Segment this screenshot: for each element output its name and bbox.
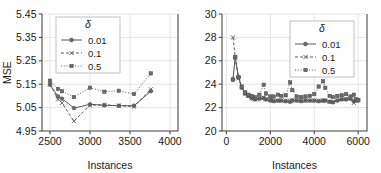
data-point-0p5-17 [291,88,294,91]
data-point-0p5-19 [299,95,302,98]
ytick-label: 5.05 [16,101,37,113]
x-axis-label: Instances [88,159,133,171]
data-point-0p01-leg [304,42,308,46]
y-axis-label: MSE [1,61,13,84]
x-axis-label: Instances [272,159,317,171]
data-point-0p01-2 [60,97,64,101]
data-point-0p5-31 [349,95,352,98]
data-point-0p5-4 [243,91,246,94]
legend-label-0p1: 0.1 [322,52,335,63]
legend-label-0p5: 0.5 [322,65,335,76]
data-point-0p5-6 [250,94,253,97]
data-point-0p5-11 [269,95,272,98]
data-point-0p5-3 [72,95,75,98]
legend-label-0p1: 0.1 [88,48,101,59]
data-point-0p5-24 [321,80,324,83]
data-point-0p5-13 [276,93,279,96]
data-point-0p5-6 [117,89,120,92]
data-point-0p5-15 [284,94,287,97]
ytick-label: 5.25 [16,54,37,66]
legend-label-0p01: 0.01 [322,39,341,50]
data-point-0p5-16 [288,81,291,84]
ytick-label: 4.95 [16,125,37,137]
data-point-0p5-20 [304,95,307,98]
figure-container: 4.955.055.155.255.355.452500300035004000… [0,0,381,173]
data-point-0p5-leg [304,68,307,71]
data-point-0p5-25 [324,86,327,89]
legend: δ0.010.10.5 [290,21,354,77]
legend-label-0p5: 0.5 [88,61,101,72]
data-point-0p5-3 [240,85,243,88]
data-point-0p5-7 [132,92,135,95]
ytick-label: 30 [205,8,217,20]
data-point-0p5-2 [60,90,63,93]
legend-title: δ [319,22,325,34]
data-point-0p5-5 [247,93,250,96]
left-chart-svg: 4.955.055.155.255.355.452500300035004000… [0,0,190,173]
data-point-0p5-18 [295,95,298,98]
legend: δ0.010.10.5 [56,17,120,73]
data-point-0p5-32 [352,93,355,96]
data-point-0p5-14 [280,94,283,97]
data-point-0p5-1 [56,87,59,90]
series-markers [48,72,152,99]
data-point-0p5-7 [253,95,256,98]
ytick-label: 5.35 [16,31,37,43]
data-point-0p5-21 [308,94,311,97]
data-point-0p5-12 [272,95,275,98]
ytick-label: 22 [205,101,217,113]
chart-panel-right: 2022242628300200040006000Instancesδ0.010… [190,0,381,173]
xtick-label: 3500 [118,135,142,147]
xtick-label: 6000 [347,135,371,147]
xtick-label: 4000 [158,135,182,147]
ytick-label: 28 [205,31,217,43]
data-point-0p5-0 [231,78,234,81]
ytick-label: 5.15 [16,78,37,90]
data-point-0p01-3 [72,106,76,110]
legend-title: δ [85,18,91,30]
data-point-0p1-2 [60,101,64,105]
xtick-label: 2500 [38,135,62,147]
data-point-0p5-10 [264,92,267,95]
series-line-0p1 [50,84,151,121]
ytick-label: 5.45 [16,8,37,20]
data-point-0p5-9 [262,83,265,86]
data-point-0p5-leg [70,64,73,67]
ytick-label: 26 [205,54,217,66]
right-chart-svg: 2022242628300200040006000Instancesδ0.010… [190,0,381,173]
ytick-label: 24 [205,78,217,90]
data-point-0p01-leg [70,38,74,42]
legend-label-0p01: 0.01 [88,35,107,46]
xtick-label: 0 [223,135,229,147]
data-point-0p5-30 [344,92,347,95]
data-point-0p5-2 [237,75,240,78]
chart-panel-left: 4.955.055.155.255.355.452500300035004000… [0,0,190,173]
data-point-0p5-0 [48,79,51,82]
data-point-0p5-27 [331,95,334,98]
series-0p5 [48,72,152,99]
data-point-0p5-8 [149,72,152,75]
data-point-0p5-28 [336,94,339,97]
ytick-label: 20 [205,125,217,137]
data-point-0p5-23 [317,85,320,88]
data-series-group [48,72,153,124]
data-point-0p5-34 [357,98,360,101]
data-point-0p5-5 [103,90,106,93]
xtick-label: 2000 [259,135,283,147]
data-point-0p5-22 [313,92,316,95]
xtick-label: 4000 [303,135,327,147]
data-point-0p1-3 [72,119,76,123]
xtick-label: 3000 [78,135,102,147]
data-point-0p5-26 [328,94,331,97]
data-point-0p5-4 [88,86,91,89]
data-point-0p5-1 [233,56,236,59]
data-point-0p5-29 [340,94,343,97]
data-point-0p5-8 [258,93,261,96]
